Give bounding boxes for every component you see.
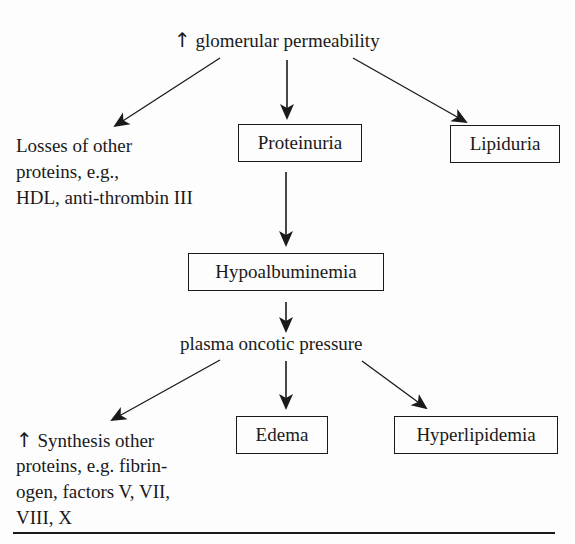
synthesis-line-4: VIII, X (16, 506, 72, 530)
bottom-rule-divider (13, 532, 555, 534)
hypoalbuminemia-box: Hypoalbuminemia (188, 253, 384, 291)
increase-arrow-icon: ↑ (174, 28, 191, 52)
increase-arrow-icon: ↑ (16, 428, 33, 452)
synthesis-line-1: ↑ Synthesis other (16, 428, 154, 453)
synthesis-line-2: proteins, e.g. fibrin- (16, 454, 167, 478)
glomerular-permeability-node: ↑ glomerular permeability (174, 28, 380, 53)
plasma-oncotic-pressure-label: plasma oncotic pressure (180, 332, 363, 356)
losses-line-1: Losses of other (16, 134, 132, 158)
hyperlipidemia-box: Hyperlipidemia (394, 416, 558, 454)
losses-line-3: HDL, anti-thrombin III (16, 186, 193, 210)
edema-box: Edema (236, 416, 328, 454)
lipiduria-box: Lipiduria (450, 125, 560, 163)
glomerular-permeability-label: glomerular permeability (196, 30, 380, 51)
nephrotic-syndrome-flow-diagram: ↑ glomerular permeability Losses of othe… (0, 0, 575, 544)
losses-line-2: proteins, e.g., (16, 160, 119, 184)
proteinuria-box: Proteinuria (238, 124, 362, 162)
synthesis-line-1-text: Synthesis other (38, 430, 155, 451)
synthesis-line-3: ogen, factors V, VII, (16, 480, 170, 504)
